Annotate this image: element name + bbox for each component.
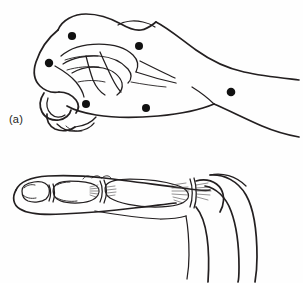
figure-panel-b: (b) xyxy=(0,145,303,283)
marker-dot-5 xyxy=(82,100,90,108)
marker-dot-4 xyxy=(227,88,236,97)
marker-dot-1 xyxy=(68,32,76,40)
hand-fist-drawing xyxy=(0,0,303,145)
panel-a-caption: (a) xyxy=(9,113,23,125)
joint-capsule-hatch-pip xyxy=(107,186,116,196)
figure-panel-a: (a) xyxy=(0,0,303,145)
finger-skeleton-drawing xyxy=(0,145,303,283)
marker-dot-6 xyxy=(142,104,150,112)
figure-page: (a) xyxy=(0,0,303,283)
marker-dot-3 xyxy=(45,59,53,67)
joint-capsule-hatch-mcp-proximal xyxy=(196,183,211,200)
marker-dot-2 xyxy=(135,42,143,50)
